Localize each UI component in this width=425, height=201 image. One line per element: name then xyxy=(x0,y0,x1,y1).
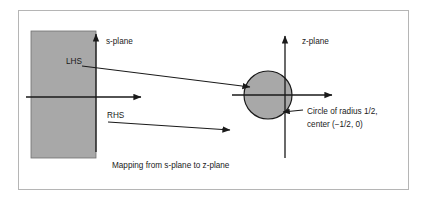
s-plane-to-z-plane-diagram: s-plane z-plane LHS RHS Circle of radius… xyxy=(0,0,425,201)
figure-caption: Mapping from s-plane to z-plane xyxy=(112,161,230,170)
rhs-label: RHS xyxy=(107,111,125,120)
circle-annotation-line1: Circle of radius 1/2, xyxy=(307,107,378,116)
z-plane-label: z-plane xyxy=(302,37,329,46)
s-plane-label: s-plane xyxy=(106,37,133,46)
lhs-label: LHS xyxy=(66,57,82,66)
figure-container: s-plane z-plane LHS RHS Circle of radius… xyxy=(0,0,425,201)
circle-annotation-line2: center (−1/2, 0) xyxy=(307,120,363,129)
s-plane-shaded-region xyxy=(31,31,96,158)
